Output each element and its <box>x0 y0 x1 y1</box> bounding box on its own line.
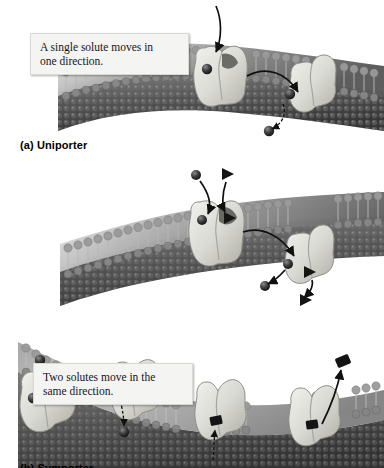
callout-symporter: Two solutes move in the same direction. <box>33 363 193 405</box>
symporter-illustration <box>0 160 384 320</box>
uniporter-protein-open <box>194 46 248 106</box>
solute-block-bound-4 <box>306 419 319 430</box>
solute-sphere-releasing <box>283 259 293 269</box>
caption-symporter: (b) Symporter <box>20 462 93 468</box>
uniporter-illustration <box>0 0 384 160</box>
solute-triangle-free <box>222 168 234 180</box>
panel-symporter: Two solutes move in the same direction. … <box>0 160 384 320</box>
arrow-sphere-out <box>268 270 285 284</box>
solute-sphere-released <box>260 281 270 291</box>
callout-uniporter: A single solute moves in one direction. <box>30 33 189 75</box>
symporter-protein-open <box>189 201 244 266</box>
solute-sphere-releasing <box>285 89 295 99</box>
solute-sphere-bound <box>202 64 212 74</box>
membrane-transport-figure: A single solute moves in one direction. … <box>0 0 384 468</box>
solute-sphere-free <box>191 170 201 180</box>
caption-uniporter: (a) Uniporter <box>20 139 87 151</box>
solute-block-released <box>335 354 352 369</box>
panel-uniporter: A single solute moves in one direction. … <box>0 0 384 160</box>
solute-sphere-released <box>264 126 274 136</box>
solute-sphere-bound <box>197 215 207 225</box>
solute-sphere-released-2 <box>119 427 129 437</box>
